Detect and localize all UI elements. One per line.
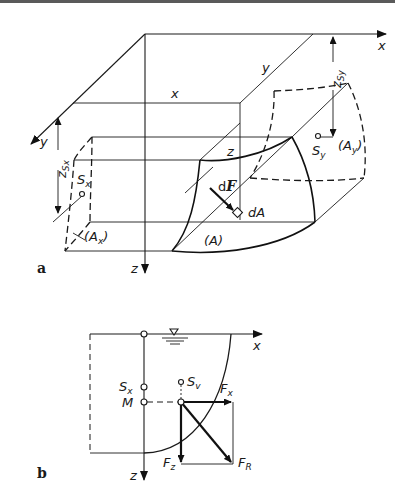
y-axis-a bbox=[31, 34, 145, 144]
sx-label-a: Sx bbox=[77, 172, 91, 189]
centroid-sx-b bbox=[141, 384, 147, 390]
centroid-sx-a bbox=[80, 192, 85, 197]
curved-wall-b bbox=[144, 334, 231, 453]
panel-label-b: b bbox=[37, 465, 47, 481]
force-origin-point bbox=[178, 399, 184, 405]
edge-label-z: z bbox=[226, 144, 235, 159]
dF-label: dF bbox=[218, 178, 237, 194]
dA-label: dA bbox=[248, 205, 265, 220]
hydrostatic-force-diagram: x y z x y z bbox=[0, 0, 395, 493]
fz-label: Fz bbox=[163, 455, 175, 472]
sy-label-a: Sy bbox=[312, 143, 326, 160]
ay-label: (Ay) bbox=[338, 138, 362, 155]
ay-bottom-dashed bbox=[250, 178, 364, 181]
edge-label-x: x bbox=[170, 86, 179, 101]
y-axis-label-a: y bbox=[39, 134, 48, 149]
curved-surface-top-edge bbox=[200, 137, 292, 161]
sx-leader bbox=[53, 196, 82, 222]
z-axis-label-a: z bbox=[130, 261, 139, 276]
dA-element bbox=[233, 208, 243, 218]
diagonal-bottom-right bbox=[315, 178, 364, 222]
m-label: M bbox=[122, 395, 133, 410]
diagonal-top-right bbox=[292, 83, 348, 137]
origin-point-b bbox=[141, 331, 147, 337]
point-m bbox=[141, 399, 147, 405]
sv-label: Sv bbox=[187, 374, 201, 391]
panel-label-a: a bbox=[37, 260, 46, 276]
diagonal-front bbox=[200, 123, 240, 160]
force-fr-arrow bbox=[181, 402, 231, 462]
centroid-sy-a bbox=[316, 134, 321, 139]
sx-label-b: Sx bbox=[119, 379, 133, 396]
centroid-sv bbox=[179, 380, 184, 385]
fr-label: FR bbox=[238, 455, 252, 472]
ax-label: (Ax) bbox=[84, 229, 108, 246]
z-axis-label-b: z bbox=[129, 468, 138, 483]
x-axis-label-a: x bbox=[377, 38, 386, 53]
figure-a: x y z x y z bbox=[31, 34, 386, 276]
zsy-label: zSy bbox=[329, 69, 346, 89]
x-axis-label-b: x bbox=[252, 338, 261, 353]
edge-label-y: y bbox=[261, 60, 270, 75]
curved-surface-bottom-edge bbox=[172, 222, 315, 252]
box-edge-right-diagonal bbox=[240, 34, 313, 103]
zsx-label: zSx bbox=[54, 159, 71, 179]
A-label: (A) bbox=[204, 233, 223, 248]
fx-label: Fx bbox=[220, 381, 233, 398]
figure-b: x z Sx M Sv Fx Fz bbox=[37, 329, 262, 483]
ay-right-dashed bbox=[348, 83, 365, 178]
ax-top-dashed bbox=[74, 137, 92, 160]
